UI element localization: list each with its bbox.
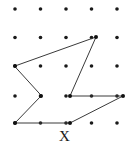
figure-label: X — [0, 128, 129, 144]
grid-dot — [39, 36, 43, 40]
polygon-vertex — [121, 94, 125, 98]
polygon-vertex — [68, 94, 72, 98]
polygon-vertex — [68, 121, 72, 125]
grid-dot — [39, 7, 43, 11]
polygon-vertex — [13, 64, 17, 68]
grid-dot — [64, 64, 68, 68]
grid-dot — [13, 36, 17, 40]
grid-dot — [115, 36, 119, 40]
grid-dot — [90, 7, 94, 11]
polygon-outline — [15, 37, 123, 123]
grid-dot — [90, 64, 94, 68]
grid-dot — [13, 94, 17, 98]
grid-dot — [64, 7, 68, 11]
grid-dot — [115, 64, 119, 68]
polygon-vertex — [94, 35, 98, 39]
polygon-vertex — [13, 121, 17, 125]
grid-dot — [39, 64, 43, 68]
polygon-vertex — [39, 94, 43, 98]
grid-dot — [64, 94, 68, 98]
grid-dot — [64, 36, 68, 40]
dot-grid-layer — [13, 7, 119, 125]
grid-dot — [115, 7, 119, 11]
grid-dot — [90, 121, 94, 125]
grid-dot — [115, 121, 119, 125]
polygon-vertex-layer — [13, 35, 125, 125]
geometry-figure-panel: X — [0, 0, 129, 151]
grid-dot — [13, 7, 17, 11]
